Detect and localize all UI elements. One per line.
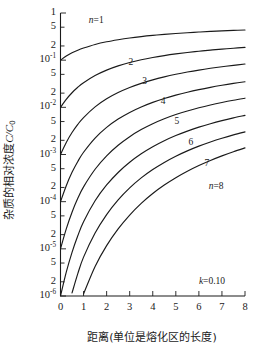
y-tick-label: 10-4 — [40, 193, 57, 206]
y-tick-label: 10-3 — [40, 146, 57, 159]
curve-n6 — [61, 115, 246, 296]
y-tick-labels: 15210-15210-25210-35210-45210-55210-6 — [40, 6, 57, 300]
k-value-annotation: k=0.10 — [199, 276, 225, 286]
curve-n7 — [72, 132, 245, 293]
y-tick-label: 5 — [51, 21, 56, 32]
curve-label-n4: 4 — [161, 96, 166, 106]
y-tick-label: 10-2 — [40, 99, 57, 112]
x-tick-label: 2 — [104, 301, 109, 312]
x-tick-label: 7 — [219, 301, 224, 312]
k-rest: =0.10 — [203, 276, 225, 286]
y-axis-title-cn: 杂质的相对浓度 — [2, 143, 16, 220]
y-tick-label: 2 — [51, 275, 56, 286]
x-tick-label: 4 — [150, 301, 156, 312]
curve-label-n5: 5 — [175, 116, 180, 126]
y-tick-label: 2 — [51, 134, 56, 145]
curve-n3 — [61, 64, 246, 154]
y-tick-label: 10-1 — [40, 52, 57, 65]
x-tick-label: 8 — [242, 301, 247, 312]
curve-n8 — [84, 148, 245, 294]
x-tick-label: 0 — [58, 301, 63, 312]
x-tick-label: 1 — [81, 301, 86, 312]
y-tick-label: 2 — [51, 39, 56, 50]
x-tick-label: 5 — [173, 301, 178, 312]
zone-refining-chart: 15210-15210-25210-35210-45210-55210-6 01… — [0, 0, 260, 354]
x-tick-label: 6 — [196, 301, 201, 312]
x-tick-labels: 012345678 — [58, 301, 248, 312]
chart-figure: 15210-15210-25210-35210-45210-55210-6 01… — [0, 0, 260, 354]
curve-n1 — [61, 30, 246, 60]
curve-label-n8: n=8 — [209, 181, 224, 191]
y-tick-label: 5 — [51, 68, 56, 79]
x-tick-label: 3 — [127, 301, 132, 312]
curve-n2 — [61, 47, 246, 107]
y-tick-label: 5 — [51, 162, 56, 173]
y-ticks — [61, 13, 67, 296]
y-tick-label: 2 — [51, 228, 56, 239]
curves — [61, 30, 246, 296]
y-tick-label: 10-5 — [40, 240, 57, 253]
y-axis-title-sub: 0 — [8, 120, 17, 125]
y-axis-title: 杂质的相对浓度C/C0 — [2, 120, 17, 220]
curve-n5 — [61, 98, 246, 249]
y-tick-label: 5 — [51, 209, 56, 220]
curve-label-n3: 3 — [142, 76, 147, 86]
y-tick-label: 5 — [51, 256, 56, 267]
curve-label-n2: 2 — [128, 57, 133, 67]
y-tick-label: 5 — [51, 115, 56, 126]
x-ticks — [61, 291, 246, 296]
curve-label-n1: n=1 — [89, 15, 104, 25]
curve-label-n6: 6 — [188, 137, 193, 147]
y-tick-label: 2 — [51, 87, 56, 98]
y-tick-label: 10-6 — [40, 288, 57, 301]
x-axis-title: 距离(单位是熔化区的长度) — [87, 330, 217, 344]
y-tick-label: 2 — [51, 181, 56, 192]
y-axis-title-sym: C/C — [3, 124, 15, 142]
y-tick-label: 1 — [51, 6, 56, 17]
curve-label-n7: 7 — [205, 158, 210, 168]
